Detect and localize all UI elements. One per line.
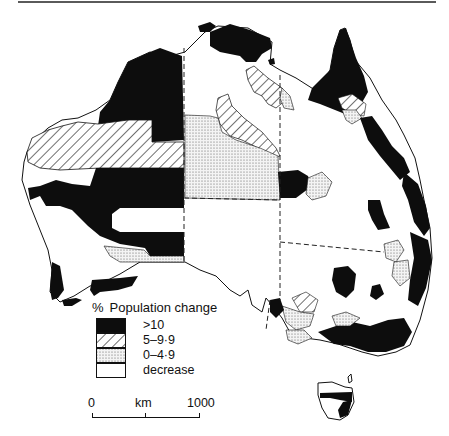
legend-swatch-blank [96,363,126,378]
scale-tick [199,413,200,418]
legend-item-growth-low: 0–4·9 [96,348,296,363]
legend-label: 0–4·9 [143,348,175,362]
legend-label: 5–9·9 [143,333,175,347]
scale-tick [92,413,93,418]
scale-bar: 0 km 1000 [88,396,218,426]
legend-item-growth-mid: 5–9·9 [96,333,296,348]
legend-label: decrease [143,363,194,377]
legend-item-decrease: decrease [96,363,296,378]
scale-start-label: 0 [88,396,95,410]
tasmania-island [348,374,352,383]
scale-unit-label: km [135,396,152,410]
scale-end-label: 1000 [187,396,215,410]
legend-percent-symbol: % [92,300,104,315]
legend-label: >10 [143,318,164,332]
legend-title: %Population change [92,300,217,315]
legend-swatch-hatch [96,333,126,348]
legend-title-text: Population change [110,300,218,315]
legend-item-growth-high: >10 [96,318,296,333]
legend-swatch-solid [96,318,126,333]
legend-swatch-stipple [96,348,126,363]
scale-line [92,417,200,418]
scale-tick [145,413,146,418]
